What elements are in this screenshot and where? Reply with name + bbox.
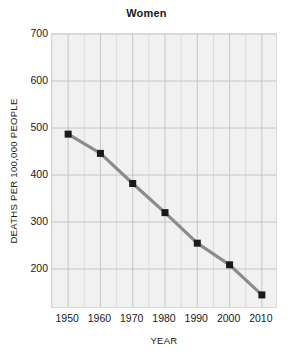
chart-figure: Women DEATHS PER 100,000 PEOPLE 70060050… xyxy=(0,0,293,356)
x-axis-label: YEAR xyxy=(51,335,277,346)
x-tick-label: 2010 xyxy=(241,313,281,324)
x-axis-ticks: 1950196019701980199020002010 xyxy=(0,0,293,356)
